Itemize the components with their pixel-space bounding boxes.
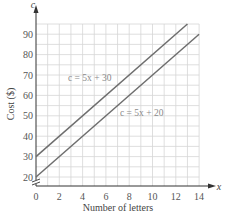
y-axis-title: Cost ($) xyxy=(5,88,17,121)
x-tick-label: 8 xyxy=(127,191,132,202)
x-tick-label: 2 xyxy=(57,191,62,202)
y-axis-variable: c xyxy=(31,0,36,10)
y-tick-label: 60 xyxy=(23,90,33,101)
y-tick-label: 80 xyxy=(23,49,33,60)
x-tick-label: 10 xyxy=(148,191,158,202)
series-label-lower: c = 5x + 20 xyxy=(120,108,164,118)
x-axis-variable: x xyxy=(216,181,222,192)
x-tick-label: 0 xyxy=(34,191,39,202)
x-tick-label: 12 xyxy=(171,191,181,202)
y-tick-label: 70 xyxy=(23,70,33,81)
x-axis-title: Number of letters xyxy=(83,202,154,213)
chart: 024681012142030405060708090 c x Number o… xyxy=(0,0,226,214)
x-tick-label: 14 xyxy=(194,191,204,202)
x-axis-arrow-icon xyxy=(208,184,216,189)
x-tick-label: 4 xyxy=(80,191,85,202)
x-tick-label: 6 xyxy=(103,191,108,202)
y-tick-label: 40 xyxy=(23,131,33,142)
y-tick-label: 20 xyxy=(23,172,33,183)
y-tick-label: 30 xyxy=(23,151,33,162)
series-label-upper: c = 5x + 30 xyxy=(68,73,112,83)
y-tick-label: 50 xyxy=(23,110,33,121)
y-tick-label: 90 xyxy=(23,29,33,40)
series-line-0 xyxy=(36,24,187,157)
